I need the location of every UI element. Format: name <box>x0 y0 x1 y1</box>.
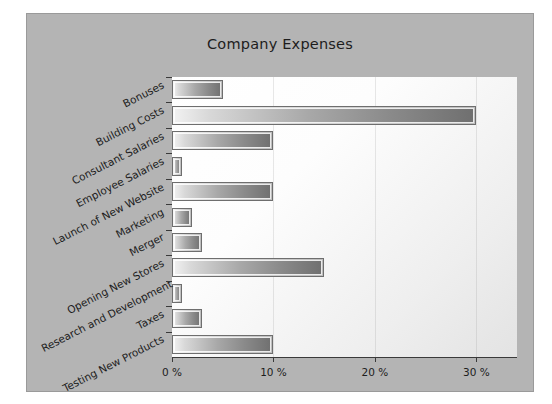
bar[interactable] <box>172 335 273 354</box>
x-tick-mark <box>375 357 376 362</box>
bar-row <box>172 309 517 328</box>
x-tick-label: 0 % <box>162 366 182 378</box>
bar-row <box>172 335 517 354</box>
chart-frame: Company Expenses 0 %10 %20 %30 % Bonuses… <box>26 13 534 392</box>
bar-row <box>172 284 517 303</box>
y-tick-mark <box>166 332 172 333</box>
bar-row <box>172 80 517 99</box>
y-tick-mark <box>166 102 172 103</box>
bar[interactable] <box>172 80 223 99</box>
bar-row <box>172 131 517 150</box>
y-tick-mark <box>166 281 172 282</box>
y-tick-mark <box>166 153 172 154</box>
bar-row <box>172 106 517 125</box>
x-tick-mark <box>476 357 477 362</box>
bar[interactable] <box>172 182 273 201</box>
bar[interactable] <box>172 131 273 150</box>
bar[interactable] <box>172 157 182 176</box>
y-tick-mark <box>166 230 172 231</box>
x-tick-mark <box>172 357 173 362</box>
x-tick-mark <box>273 357 274 362</box>
y-tick-mark <box>166 179 172 180</box>
bar-row <box>172 233 517 252</box>
x-axis-line <box>172 357 517 358</box>
bar[interactable] <box>172 208 192 227</box>
y-tick-mark <box>166 306 172 307</box>
y-tick-mark <box>166 204 172 205</box>
x-tick-label: 10 % <box>260 366 287 378</box>
y-tick-mark <box>166 255 172 256</box>
x-tick-label: 20 % <box>362 366 389 378</box>
x-tick-label: 30 % <box>463 366 490 378</box>
bar[interactable] <box>172 258 324 277</box>
bar[interactable] <box>172 233 202 252</box>
bar[interactable] <box>172 106 476 125</box>
bar-row <box>172 157 517 176</box>
bar-row <box>172 182 517 201</box>
y-tick-mark <box>166 128 172 129</box>
y-tick-mark <box>166 77 172 78</box>
chart-title: Company Expenses <box>27 36 533 52</box>
bar[interactable] <box>172 309 202 328</box>
bar-row <box>172 208 517 227</box>
plot-area <box>172 77 517 357</box>
bar-row <box>172 258 517 277</box>
bar[interactable] <box>172 284 182 303</box>
